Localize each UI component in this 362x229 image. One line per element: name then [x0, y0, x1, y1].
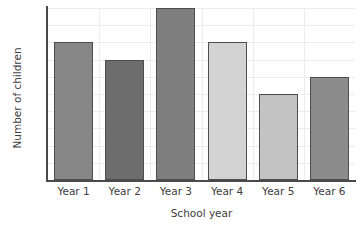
x-tick-label: Year 1 — [48, 185, 99, 197]
x-axis-line — [46, 180, 356, 182]
bar — [105, 60, 144, 180]
x-tick-label: Year 6 — [304, 185, 355, 197]
x-tick-label: Year 4 — [202, 185, 253, 197]
bar-group — [259, 8, 298, 180]
x-tick-label: Year 3 — [150, 185, 201, 197]
bar-series — [48, 8, 355, 180]
bar-group — [105, 8, 144, 180]
bar — [156, 8, 195, 180]
bar-group — [208, 8, 247, 180]
bar-group — [310, 8, 349, 180]
bar — [259, 94, 298, 180]
x-tick-label: Year 2 — [99, 185, 150, 197]
x-tick-label: Year 5 — [253, 185, 304, 197]
bar-chart: Number of children 010203040506070809010… — [0, 0, 362, 229]
bar — [54, 42, 93, 180]
bar — [208, 42, 247, 180]
bar-group — [156, 8, 195, 180]
bar-group — [54, 8, 93, 180]
y-axis-title: Number of children — [11, 23, 23, 173]
bar — [310, 77, 349, 180]
plot-area — [48, 8, 355, 180]
x-axis-title: School year — [48, 207, 355, 219]
